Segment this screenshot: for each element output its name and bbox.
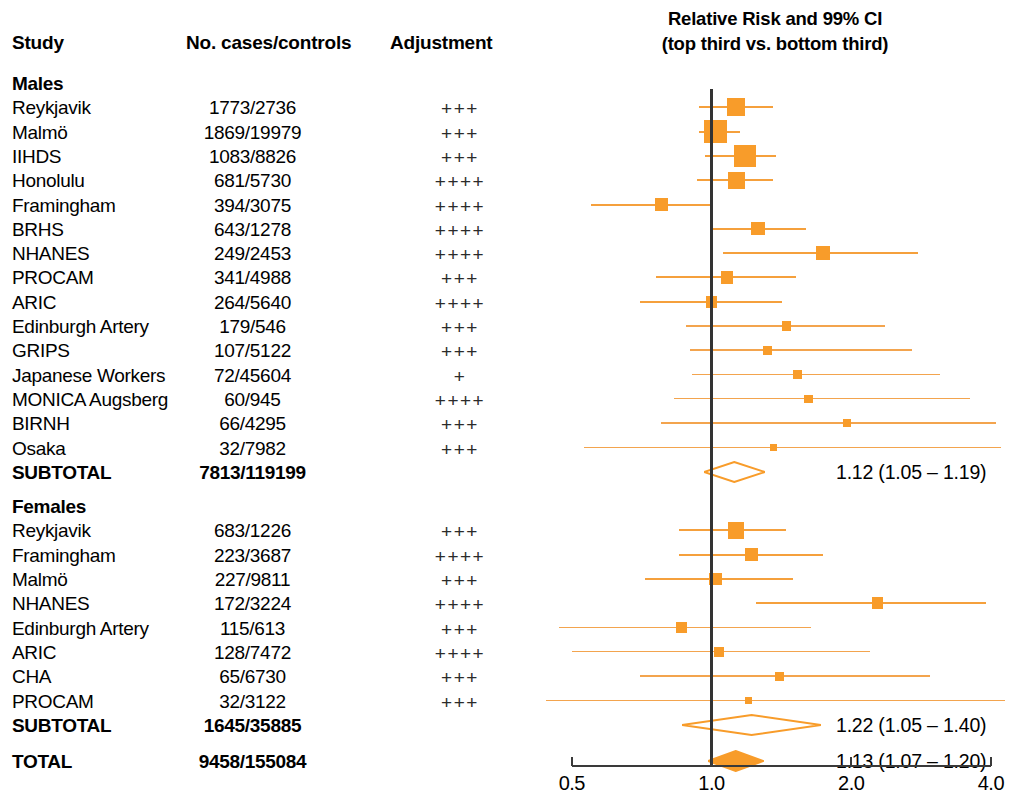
x-axis-tick-label: 4.0 <box>961 772 1014 795</box>
point-estimate-marker <box>728 172 745 189</box>
point-estimate-marker <box>714 647 724 657</box>
confidence-interval-line <box>591 204 711 206</box>
x-axis-tick-label: 1.0 <box>682 772 742 795</box>
point-estimate-marker <box>734 145 756 167</box>
point-estimate-marker <box>843 419 851 427</box>
subtotal-estimate-males: 1.12 (1.05 – 1.19) <box>836 461 986 484</box>
confidence-interval-line <box>690 349 911 351</box>
point-estimate-marker <box>727 98 745 116</box>
point-estimate-marker <box>704 120 727 143</box>
total-diamond <box>708 750 763 772</box>
plot-area: 1.12 (1.05 – 1.19)1.22 (1.05 – 1.40)1.13… <box>0 0 1014 798</box>
point-estimate-marker <box>770 444 777 451</box>
x-axis-line <box>572 765 991 767</box>
point-estimate-marker <box>872 597 884 609</box>
point-estimate-marker <box>655 198 668 211</box>
x-axis-tick <box>571 757 573 766</box>
subtotal-diamond-females <box>682 714 821 736</box>
confidence-interval-line <box>640 675 930 677</box>
confidence-interval-line <box>584 447 1001 449</box>
subtotal-estimate-females: 1.22 (1.05 – 1.40) <box>836 714 986 737</box>
point-estimate-marker <box>763 346 772 355</box>
point-estimate-marker <box>728 522 744 538</box>
point-estimate-marker <box>804 395 813 404</box>
point-estimate-marker <box>751 222 764 235</box>
x-axis-tick <box>990 757 992 766</box>
point-estimate-marker <box>793 370 802 379</box>
x-axis-tick <box>850 757 852 766</box>
forest-plot-figure: Study No. cases/controls Adjustment Rela… <box>0 0 1014 798</box>
point-estimate-marker <box>721 271 734 284</box>
point-estimate-marker <box>775 672 784 681</box>
confidence-interval-line <box>674 398 970 400</box>
x-axis-tick-label: 0.5 <box>542 772 602 795</box>
confidence-interval-line <box>692 374 939 376</box>
confidence-interval-line <box>546 700 1005 702</box>
point-estimate-marker <box>745 548 758 561</box>
point-estimate-marker <box>816 246 830 260</box>
point-estimate-marker <box>782 321 791 330</box>
point-estimate-marker <box>745 697 752 704</box>
subtotal-diamond-males <box>704 461 765 483</box>
point-estimate-marker <box>676 622 687 633</box>
x-axis-tick <box>711 757 713 766</box>
x-axis-tick-label: 2.0 <box>821 772 881 795</box>
total-estimate: 1.13 (1.07 – 1.20) <box>836 750 986 773</box>
reference-line <box>710 89 713 765</box>
